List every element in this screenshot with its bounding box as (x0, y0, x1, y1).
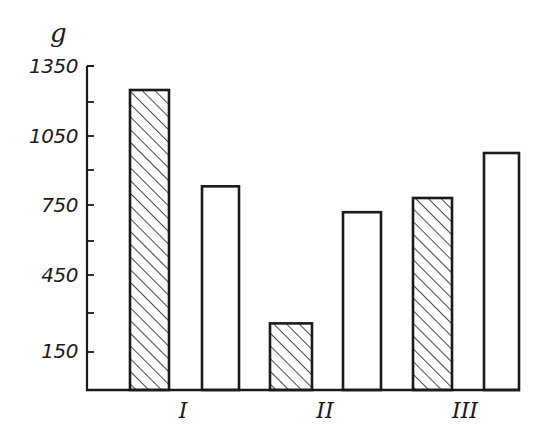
plot-area (0, 0, 548, 444)
x-category-label-I: I (153, 400, 213, 422)
bar-hatched-III (413, 198, 452, 390)
bar-open-II (343, 212, 381, 390)
y-axis-unit-label: g (50, 20, 67, 46)
y-tick-label-150: 150 (18, 341, 78, 361)
bar-open-III (484, 153, 519, 390)
x-category-label-II: II (295, 400, 355, 422)
bar-hatched-II (270, 323, 312, 390)
y-tick-label-450: 450 (18, 265, 78, 285)
y-tick-label-750: 750 (18, 195, 78, 215)
bar-hatched-I (130, 90, 169, 390)
x-category-label-III: III (435, 400, 495, 422)
bars-group (130, 90, 519, 390)
y-tick-label-1350: 1350 (18, 56, 78, 76)
bar-open-I (202, 186, 239, 390)
y-tick-label-1050: 1050 (18, 126, 78, 146)
bar-chart: g 1350 1050 750 450 150 I II III (0, 0, 548, 444)
